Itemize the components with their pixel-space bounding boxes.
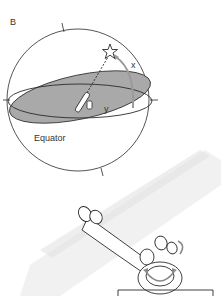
arc-x-label: x (131, 60, 136, 70)
celestial-sphere: x y Equator (3, 23, 158, 176)
rotation-arrow-top (178, 241, 183, 254)
celestial-diagram: B (0, 0, 221, 296)
arc-y-label: y (104, 104, 109, 114)
diagram-canvas: x y Equator (0, 0, 221, 296)
equator-label: Equator (34, 133, 66, 143)
shadow-beam (20, 150, 221, 296)
south-pole-tick (101, 168, 103, 176)
panel-label: B (10, 17, 16, 27)
